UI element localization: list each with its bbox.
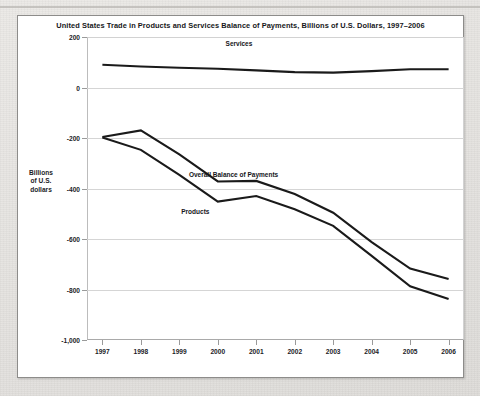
y-axis-label: -400: [67, 185, 80, 192]
series-label-services: Services: [226, 40, 253, 47]
y-axis-tick: [82, 340, 87, 341]
x-axis-label: 2002: [287, 348, 302, 355]
y-axis-title-line-2: of U.S.: [18, 177, 64, 186]
x-axis-label: 1997: [95, 348, 110, 355]
series-line-services: [102, 65, 448, 73]
y-axis-label: -600: [67, 236, 80, 243]
y-axis-title-line-1: Billions: [18, 169, 64, 178]
x-axis-tick: [102, 340, 103, 345]
x-axis-label: 1999: [172, 348, 187, 355]
x-axis-label: 2000: [210, 348, 225, 355]
x-axis-tick: [141, 340, 142, 345]
y-axis-title: Billions of U.S. dollars: [18, 169, 64, 195]
x-axis-tick: [179, 340, 180, 345]
x-axis-label: 2005: [403, 348, 418, 355]
series-lines: [87, 37, 464, 340]
x-axis-tick: [218, 340, 219, 345]
chart-card: United States Trade in Products and Serv…: [17, 15, 464, 378]
y-axis-label: -800: [67, 286, 80, 293]
plot-area: 2000-200-400-600-800-1,000 1997199819992…: [87, 37, 464, 340]
x-axis-tick: [449, 340, 450, 345]
x-axis-label: 2003: [326, 348, 341, 355]
y-axis-label: -1,000: [61, 337, 80, 344]
series-label-products: Products: [181, 208, 209, 215]
x-axis-label: 2006: [441, 348, 456, 355]
series-label-overall-balance-of-payments: Overall Balance of Payments: [189, 171, 278, 178]
x-axis-label: 1998: [134, 348, 149, 355]
x-axis-label: 2004: [364, 348, 379, 355]
y-axis-label: 200: [69, 34, 80, 41]
series-line-products: [102, 138, 448, 300]
x-axis-tick: [410, 340, 411, 345]
y-axis-label: 0: [76, 84, 80, 91]
y-axis-title-line-3: dollars: [18, 186, 64, 195]
x-axis-tick: [295, 340, 296, 345]
chart-title: United States Trade in Products and Serv…: [18, 21, 463, 30]
top-rule: [0, 6, 480, 8]
x-axis-tick: [333, 340, 334, 345]
series-line-overall-balance-of-payments: [102, 130, 448, 278]
x-axis-tick: [256, 340, 257, 345]
y-axis-label: -200: [67, 135, 80, 142]
x-axis-label: 2001: [249, 348, 264, 355]
x-axis-tick: [372, 340, 373, 345]
